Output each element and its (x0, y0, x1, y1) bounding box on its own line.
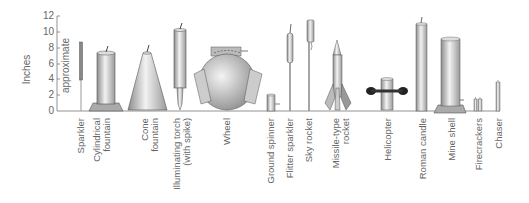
tick-8: 8 (38, 42, 54, 53)
helicopter-drawing (366, 78, 408, 111)
label-cylindrical-fountain: Cylindrical fountain (92, 118, 112, 162)
label-mine-shell: Mine shell (447, 118, 457, 161)
cylindrical-fountain-drawing (89, 46, 123, 111)
firecrackers-drawing (474, 97, 482, 111)
sky-rocket-drawing (307, 20, 314, 111)
label-wheel: Wheel (222, 118, 232, 145)
tick-0: 0 (38, 105, 54, 116)
approximate-annotation: approximate (60, 31, 71, 101)
label-sky-rocket: Sky rocket (304, 118, 314, 162)
label-cone-fountain: Cone fountain (140, 118, 160, 152)
cone-fountain-drawing (128, 45, 167, 110)
mine-shell-drawing (434, 37, 466, 113)
label-helicopter: Helicopter (383, 118, 393, 161)
label-flitter-sparkler: Flitter sparkler (285, 118, 295, 178)
roman-candle-drawing (416, 17, 427, 111)
label-missile-rocket: Missile-type rocket (331, 118, 351, 168)
wheel-drawing (194, 47, 262, 110)
label-roman-candle: Roman candle (418, 118, 428, 179)
illuminating-torch-drawing (174, 23, 186, 110)
tick-2: 2 (38, 89, 54, 100)
label-ground-spinner: Ground spinner (266, 118, 276, 183)
label-chaser: Chaser (494, 118, 504, 149)
chaser-drawing (496, 80, 500, 111)
missile-rocket-drawing (325, 40, 351, 110)
tick-6: 6 (38, 58, 54, 69)
tick-4: 4 (38, 73, 54, 84)
ground-spinner-drawing (267, 94, 280, 111)
label-firecrackers: Firecrackers (474, 118, 484, 170)
flitter-sparkler-drawing (287, 24, 293, 111)
label-illuminating-torch: Illuminating torch (with spike) (172, 118, 192, 190)
y-axis-label: Inches (21, 50, 32, 90)
sparkler-drawing (80, 42, 83, 111)
fireworks-size-diagram: Inches 12 10 8 6 4 2 0 approximate Spark… (0, 0, 529, 203)
tick-12: 12 (38, 10, 54, 21)
tick-10: 10 (38, 26, 54, 37)
label-sparkler: Sparkler (76, 118, 86, 153)
